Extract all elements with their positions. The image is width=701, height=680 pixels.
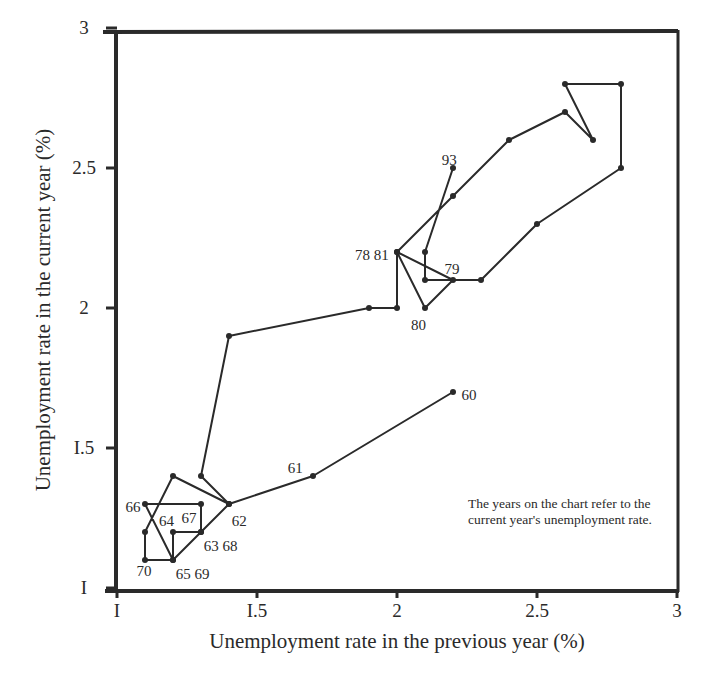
- x-axis-title: Unemployment rate in the previous year (…: [209, 629, 585, 653]
- data-point-83: [506, 137, 512, 143]
- data-point-75: [226, 333, 232, 339]
- year-label: 80: [411, 317, 426, 333]
- data-series-path: [142, 81, 624, 563]
- data-point-72: [170, 473, 176, 479]
- data-point-67: [198, 529, 204, 535]
- data-point-68: [170, 529, 176, 535]
- data-point-73: [226, 501, 232, 507]
- year-label: 93: [442, 152, 457, 168]
- data-point-77: [394, 305, 400, 311]
- year-label: 64: [159, 513, 175, 529]
- data-point-85: [590, 137, 596, 143]
- x-tick-label: 3: [672, 600, 682, 621]
- chart-annotation: The years on the chart refer to the curr…: [468, 496, 668, 528]
- data-point-69: [170, 557, 176, 563]
- top-border: [103, 31, 678, 32]
- data-point-90: [478, 277, 484, 283]
- year-label: 66: [125, 499, 140, 515]
- x-tick-label: I: [114, 600, 120, 621]
- x-tick-label: 2: [392, 600, 402, 621]
- data-point-84: [562, 109, 568, 115]
- data-point-89: [534, 221, 540, 227]
- data-point-88: [618, 165, 624, 171]
- year-label: 63 68: [204, 538, 238, 554]
- data-point-82: [450, 193, 456, 199]
- year-label: 62: [232, 513, 247, 529]
- year-label: 70: [137, 563, 152, 579]
- y-tick-label: I.5: [74, 437, 95, 458]
- data-point-87: [618, 81, 624, 87]
- data-point-74: [198, 473, 204, 479]
- data-point-71: [142, 529, 148, 535]
- year-label: 67: [181, 510, 197, 526]
- data-point-79: [450, 277, 456, 283]
- data-point-66: [198, 501, 204, 507]
- point-labels: 60616263 6864676665 697078 81798093: [125, 152, 476, 582]
- data-point-61: [310, 473, 316, 479]
- chart-canvas: II.522.53II.522.53 60616263 6864676665 6…: [0, 0, 701, 680]
- year-label: 78 81: [355, 247, 389, 263]
- y-tick-label: 2: [79, 297, 89, 318]
- year-label: 79: [445, 261, 460, 277]
- y-tick-label: 2.5: [72, 157, 96, 178]
- year-label: 65 69: [176, 566, 210, 582]
- data-point-60: [450, 389, 456, 395]
- year-label: 61: [288, 460, 303, 476]
- data-point-80: [422, 305, 428, 311]
- x-tick-label: I.5: [247, 600, 268, 621]
- data-point-81: [394, 249, 400, 255]
- data-point-70: [142, 557, 148, 563]
- axis-ticks: II.522.53II.522.53: [72, 17, 682, 621]
- y-tick-label: 3: [79, 17, 89, 38]
- y-tick-label: I: [81, 577, 87, 598]
- year-label: 60: [461, 387, 476, 403]
- x-tick-label: 2.5: [525, 600, 549, 621]
- data-point-92: [422, 249, 428, 255]
- data-point-76: [366, 305, 372, 311]
- series-line: [145, 84, 621, 560]
- data-point-65: [142, 501, 148, 507]
- data-point-86: [562, 81, 568, 87]
- data-point-91: [422, 277, 428, 283]
- y-axis-title: Unemployment rate in the current year (%…: [31, 129, 55, 492]
